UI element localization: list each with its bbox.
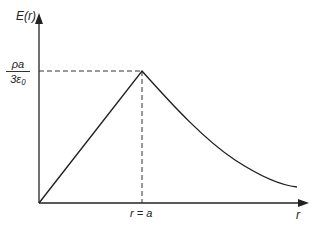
- fraction-bar: [6, 71, 30, 72]
- y-tick-numerator: ρa: [4, 58, 32, 70]
- y-axis-label: E(r): [16, 9, 36, 23]
- x-axis-arrow-icon: [298, 199, 309, 207]
- chart-canvas: [0, 0, 321, 226]
- chart-figure: E(r) ρa 3ε₀ r = a r: [0, 0, 321, 226]
- y-tick-label: ρa 3ε₀: [4, 58, 32, 85]
- x-tick-label: r = a: [130, 207, 152, 219]
- x-axis-label: r: [296, 208, 300, 222]
- y-axis-arrow-icon: [35, 13, 43, 24]
- y-tick-denominator: 3ε₀: [4, 73, 32, 85]
- field-curve: [39, 71, 297, 203]
